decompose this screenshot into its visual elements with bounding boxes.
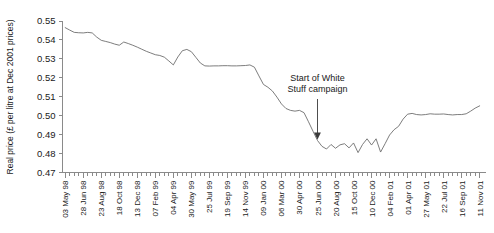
x-axis-tick-label: 14 Nov 99 bbox=[241, 180, 250, 217]
x-axis-tick-label: 18 Oct 98 bbox=[115, 180, 124, 215]
x-axis-tick-label: 10 Dec 00 bbox=[368, 180, 377, 217]
y-axis-tick-label: 0.49 bbox=[37, 129, 56, 140]
line-chart: Real price (£ per litre at Dec 2001 pric… bbox=[0, 0, 494, 233]
x-axis-tick-label: 19 Sep 99 bbox=[223, 180, 232, 217]
y-axis-tick-label: 0.48 bbox=[37, 148, 56, 159]
x-axis-tick-label: 23 Aug 98 bbox=[97, 180, 106, 217]
y-axis-tick-label: 0.55 bbox=[37, 15, 56, 26]
annotation-line-1: Start of White bbox=[290, 73, 345, 83]
x-axis-tick-label: 27 May 01 bbox=[422, 180, 431, 218]
x-axis-tick-label: 22 Jul 01 bbox=[440, 180, 449, 213]
x-axis-tick-label: 09 Jan 00 bbox=[259, 180, 268, 216]
y-axis-tick-label: 0.47 bbox=[37, 167, 56, 178]
x-axis-tick-label: 11 Nov 01 bbox=[476, 180, 485, 216]
x-axis-tick-label: 07 Feb 99 bbox=[151, 180, 160, 217]
annotation-line-2: Stuff campaign bbox=[288, 84, 348, 94]
x-axis-ticks: 03 May 9828 Jun 9823 Aug 9818 Oct 9813 D… bbox=[61, 173, 484, 218]
y-axis-title-text: Real price (£ per litre at Dec 2001 pric… bbox=[5, 19, 15, 174]
x-axis-tick-label: 25 Jun 00 bbox=[314, 180, 323, 216]
campaign-annotation: Start of White Stuff campaign bbox=[288, 73, 348, 139]
y-axis-tick-label: 0.52 bbox=[37, 72, 56, 83]
x-axis-tick-label: 03 May 98 bbox=[61, 180, 70, 218]
x-axis-tick-label: 20 Aug 00 bbox=[332, 180, 341, 217]
y-axis-tick-label: 0.50 bbox=[37, 110, 56, 121]
x-axis-tick-label: 25 Jul 99 bbox=[205, 180, 214, 213]
x-axis-tick-label: 15 Oct 00 bbox=[350, 180, 359, 215]
y-axis-title: Real price (£ per litre at Dec 2001 pric… bbox=[5, 19, 15, 174]
y-axis-ticks: 0.550.540.530.520.510.500.490.480.47 bbox=[37, 15, 63, 178]
x-axis-tick-label: 04 Apr 99 bbox=[169, 180, 178, 215]
x-axis-tick-label: 28 Jun 98 bbox=[79, 180, 88, 216]
x-axis-tick-label: 04 Feb 01 bbox=[386, 180, 395, 217]
x-axis-tick-label: 30 May 99 bbox=[187, 180, 196, 218]
chart-container: Real price (£ per litre at Dec 2001 pric… bbox=[0, 0, 494, 233]
x-axis-tick-label: 06 Mar 00 bbox=[277, 180, 286, 217]
y-axis-tick-label: 0.53 bbox=[37, 53, 56, 64]
price-series-line bbox=[65, 28, 479, 153]
x-axis-tick-label: 16 Sep 01 bbox=[458, 180, 467, 217]
x-axis-tick-label: 30 Apr 00 bbox=[295, 180, 304, 215]
y-axis-tick-label: 0.54 bbox=[37, 34, 56, 45]
x-axis-tick-label: 13 Dec 98 bbox=[133, 180, 142, 217]
y-axis-tick-label: 0.51 bbox=[37, 91, 56, 102]
x-axis-tick-label: 01 Apr 01 bbox=[404, 180, 413, 215]
